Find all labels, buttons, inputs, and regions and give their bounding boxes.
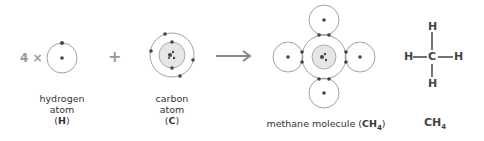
struct-h-bottom: H — [428, 77, 437, 90]
carbon-label: carbon atom (C) — [142, 93, 202, 126]
hydrogen-atom-icon — [47, 41, 77, 73]
condensed-formula: CH4 — [424, 116, 446, 131]
struct-c-center: C — [428, 50, 436, 63]
hydrogen-label: hydrogen atom (H) — [32, 93, 92, 126]
multiplier-label: 4 × — [20, 51, 43, 65]
plus-sign: + — [108, 47, 121, 66]
carbon-atom-icon — [149, 32, 195, 78]
struct-h-left: H — [404, 50, 413, 63]
struct-h-top: H — [428, 20, 437, 33]
methane-molecule-icon — [273, 5, 375, 108]
struct-h-right: H — [454, 50, 463, 63]
methane-label: methane molecule (CH4) — [266, 118, 386, 134]
reaction-arrow-icon — [216, 51, 250, 61]
